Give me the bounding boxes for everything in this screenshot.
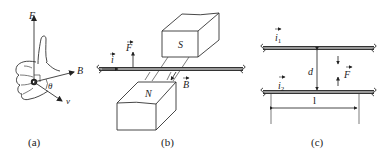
electromagnetic-force-figure: F B v θ (a) S: [0, 0, 391, 156]
panel-a-right-hand-rule: F B v θ (a): [16, 10, 83, 149]
panel-b-wire-in-magnet: S i F B N (b): [97, 13, 245, 149]
wire-1: [261, 44, 376, 52]
label-force: F: [343, 69, 351, 80]
label-angle: θ: [48, 81, 53, 91]
south-pole-magnet: S: [162, 13, 219, 57]
label-force: F: [28, 10, 36, 21]
current-wire: [97, 65, 245, 73]
thumb-icon: [38, 36, 47, 64]
label-field: B: [77, 65, 83, 76]
label-north-pole: N: [144, 88, 153, 99]
north-pole-magnet: N: [117, 82, 176, 130]
caption-a: (a): [28, 136, 41, 149]
label-field: B: [183, 79, 189, 90]
label-length: l: [313, 94, 316, 106]
label-velocity: v: [66, 96, 70, 106]
label-south-pole: S: [178, 39, 183, 50]
panel-c-parallel-wires: i1 i2 d F l (c): [261, 29, 376, 149]
label-current-1: i1: [275, 32, 282, 45]
caption-b: (b): [161, 136, 174, 149]
label-force: F: [125, 42, 133, 53]
label-separation: d: [308, 66, 314, 77]
label-current: i: [111, 54, 114, 65]
caption-c: (c): [311, 136, 324, 149]
